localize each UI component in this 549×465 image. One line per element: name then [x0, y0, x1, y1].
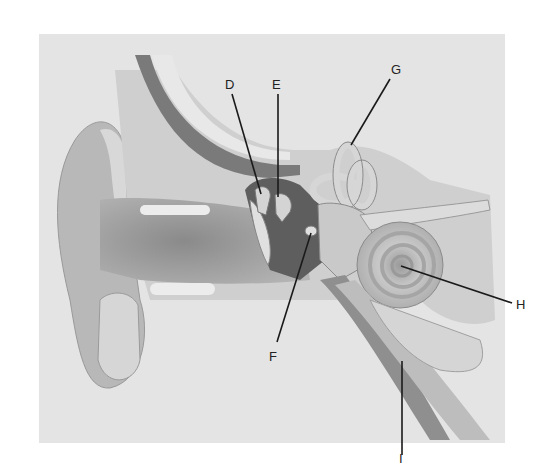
cochlea: [357, 222, 443, 308]
label-d: D: [225, 78, 234, 91]
canal-highlight: [140, 205, 210, 215]
label-e: E: [272, 78, 281, 91]
canal-highlight-lower: [150, 283, 215, 295]
ear-illustration: [0, 0, 549, 465]
label-f: F: [269, 350, 277, 363]
leader-line-g: [351, 79, 390, 145]
label-h: H: [516, 298, 525, 311]
label-i: I: [399, 452, 403, 465]
label-g: G: [391, 63, 401, 76]
